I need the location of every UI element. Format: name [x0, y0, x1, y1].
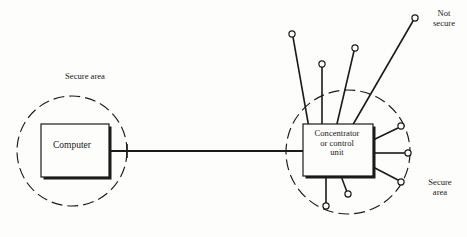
computer-box: [41, 124, 109, 177]
terminal-icon-8: [323, 203, 329, 209]
branch-line-up-4: [351, 21, 413, 128]
diagram-canvas: [0, 0, 467, 237]
branch-line-up-1: [293, 37, 309, 128]
concentrator-box: [303, 124, 373, 176]
terminal-icon-6: [405, 150, 411, 156]
terminal-icon-5: [398, 123, 404, 129]
terminal-icon-7: [398, 179, 404, 185]
terminal-icon-3: [352, 45, 358, 51]
terminal-icon-2: [319, 61, 325, 67]
branch-line-right-1: [373, 128, 398, 140]
terminal-icon-4: [412, 15, 418, 21]
network-diagram: Computer Concentrator or control unit Se…: [0, 0, 467, 237]
terminal-icon-9: [345, 191, 351, 197]
branch-line-up-3: [336, 51, 354, 128]
terminal-icon-1: [289, 31, 295, 37]
branch-line-right-3: [373, 167, 398, 180]
